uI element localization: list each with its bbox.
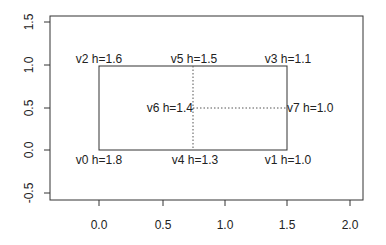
x-tick-label: 1.5 [279,218,296,232]
y-tick-labels: 1.5 1.0 0.5 0.0 -0.5 [22,13,36,203]
y-tick-label: 0.0 [22,141,36,158]
vertex-label-v3: v3 h=1.1 [265,52,312,66]
y-tick-label: 1.0 [22,56,36,73]
y-axis [44,22,50,193]
y-tick-label: -0.5 [22,182,36,203]
y-tick-label: 1.5 [22,13,36,30]
y-tick-label: 0.5 [22,99,36,116]
vertex-label-v4: v4 h=1.3 [172,153,219,167]
x-tick-label: 2.0 [342,218,359,232]
x-tick-label: 0.0 [91,218,108,232]
x-axis [99,200,350,206]
x-tick-label: 0.5 [155,218,172,232]
vertex-label-v6: v6 h=1.4 [147,101,194,115]
x-tick-label: 1.0 [217,218,234,232]
vertex-label-v1: v1 h=1.0 [265,153,312,167]
mesh-plot: 1.5 1.0 0.5 0.0 -0.5 0.0 0.5 1.0 1.5 2.0… [0,0,386,245]
vertex-label-v0: v0 h=1.8 [76,153,123,167]
vertex-label-v2: v2 h=1.6 [76,52,123,66]
vertex-label-v7: v7 h=1.0 [287,101,334,115]
x-tick-labels: 0.0 0.5 1.0 1.5 2.0 [91,218,359,232]
vertex-label-v5: v5 h=1.5 [171,52,218,66]
